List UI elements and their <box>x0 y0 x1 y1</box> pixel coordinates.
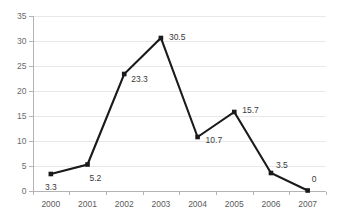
data-point-label: 15.7 <box>242 105 259 115</box>
y-axis-tick-label: 30 <box>17 36 27 46</box>
x-axis-tick-label: 2004 <box>188 199 207 209</box>
line-chart: 0510152025303520002001200220032004200520… <box>0 0 337 220</box>
x-axis-tick-label: 2001 <box>78 199 97 209</box>
y-axis-tick-label: 10 <box>17 136 27 146</box>
chart-canvas: 0510152025303520002001200220032004200520… <box>0 0 337 220</box>
series-line <box>51 38 308 191</box>
data-point-marker[interactable] <box>232 110 237 115</box>
data-point-marker[interactable] <box>269 171 274 176</box>
data-point-label: 5.2 <box>90 173 102 183</box>
x-axis-tick-label: 2000 <box>41 199 60 209</box>
data-point-marker[interactable] <box>305 188 310 193</box>
data-point-label: 3.5 <box>276 160 288 170</box>
y-axis-tick-label: 25 <box>17 61 27 71</box>
data-point-label: 10.7 <box>206 135 223 145</box>
data-point-label: 0 <box>312 174 317 184</box>
y-axis-tick-label: 20 <box>17 86 27 96</box>
data-point-marker[interactable] <box>122 72 127 77</box>
data-point-marker[interactable] <box>159 36 164 41</box>
data-point-marker[interactable] <box>85 162 90 167</box>
y-axis-tick-label: 35 <box>17 11 27 21</box>
data-point-label: 23.3 <box>131 74 148 84</box>
x-axis-tick-label: 2003 <box>151 199 170 209</box>
x-axis-tick-label: 2002 <box>115 199 134 209</box>
y-axis-tick-label: 0 <box>22 186 27 196</box>
data-point-marker[interactable] <box>49 172 54 177</box>
x-axis-tick-label: 2007 <box>298 199 317 209</box>
y-axis-tick-label: 5 <box>22 161 27 171</box>
data-point-label: 3.3 <box>45 182 57 192</box>
data-point-label: 30.5 <box>169 32 186 42</box>
y-axis-tick-label: 15 <box>17 111 27 121</box>
x-axis-tick-label: 2005 <box>225 199 244 209</box>
data-point-marker[interactable] <box>195 135 200 140</box>
x-axis-tick-label: 2006 <box>262 199 281 209</box>
